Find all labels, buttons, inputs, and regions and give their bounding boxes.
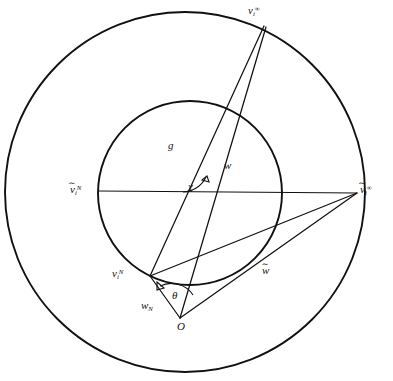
- label-vi-infinity: vi∞: [248, 5, 260, 18]
- segment-viN-to-vtilde-infinity: [150, 193, 357, 276]
- label-vtilde-infinity-tildewrap: ∼v: [360, 184, 365, 195]
- label-g: g: [168, 140, 174, 151]
- inner-circle: [98, 101, 282, 285]
- tilde-mark-icon: ∼: [358, 179, 366, 188]
- label-w-tilde: ∼w: [262, 265, 269, 276]
- segment-origin-to-vi-infinity: [180, 27, 266, 318]
- label-w-N: wN: [141, 300, 153, 313]
- label-chi: χ: [188, 181, 193, 192]
- label-vtilde-infinity: ∼vi∞: [360, 184, 372, 197]
- segment-viN-to-vi-infinity: [150, 26, 264, 276]
- label-theta: θ: [172, 290, 177, 301]
- label-vtilde-N: ∼viN: [70, 184, 81, 197]
- tilde-mark-icon: ∼: [68, 179, 76, 188]
- horizontal-axis-line: [99, 191, 357, 193]
- label-w-tilde-tildewrap: ∼w: [262, 265, 269, 276]
- geometric-figure: vi∞ ∼vi∞ ∼viN viN g w χ ∼w wN θ O: [0, 0, 393, 381]
- label-w-N-sub: N: [148, 305, 153, 312]
- label-vtilde-N-tildewrap: ∼v: [70, 184, 75, 195]
- diagram-canvas: [0, 0, 393, 381]
- label-vtilde-infinity-sup: ∞: [367, 184, 372, 191]
- label-vi-N-sup: N: [119, 268, 124, 275]
- label-origin: O: [177, 321, 185, 332]
- label-vi-infinity-sup: ∞: [255, 5, 260, 12]
- label-vi-N: viN: [112, 268, 123, 281]
- label-w: w: [224, 160, 231, 171]
- tilde-mark-icon: ∼: [262, 260, 270, 269]
- label-vtilde-N-sup: N: [77, 184, 82, 191]
